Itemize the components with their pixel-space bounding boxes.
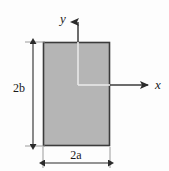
height-dimension-label: 2b bbox=[13, 81, 25, 95]
cross-section-rectangle bbox=[44, 43, 110, 146]
x-axis-label: x bbox=[154, 77, 161, 92]
width-dimension-label: 2a bbox=[70, 148, 82, 162]
cross-section-diagram: y x 2b 2a bbox=[0, 0, 169, 171]
figure-canvas: y x 2b 2a bbox=[0, 0, 169, 171]
y-axis-label: y bbox=[58, 11, 66, 26]
